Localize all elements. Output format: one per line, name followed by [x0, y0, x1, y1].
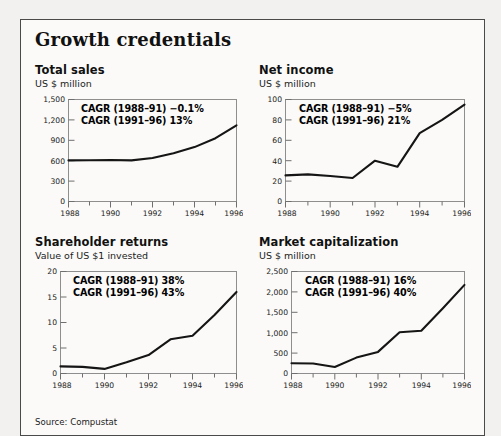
xtick-label: 1988	[283, 381, 302, 390]
xtick-label: 1994	[185, 209, 204, 218]
panel-title-total-sales: Total sales	[35, 64, 247, 77]
annotation-total-sales: CAGR (1988–91) −0.1% CAGR (1991–96) 13%	[81, 103, 204, 127]
ytick-label: 0	[283, 369, 288, 378]
ytick-label: 1,200	[43, 116, 65, 125]
annotation-shareholder-returns: CAGR (1988–91) 38% CAGR (1991–96) 43%	[73, 275, 184, 299]
panel-net-income: Net income US $ million	[259, 64, 474, 225]
xtick-label: 1992	[368, 381, 387, 390]
xtick-label: 1990	[101, 209, 120, 218]
ytick-label: 500	[274, 349, 289, 358]
xtick-label: 1992	[365, 209, 384, 218]
panel-subtitle-shareholder-returns: Value of US $1 invested	[35, 250, 247, 261]
annotation-line: CAGR (1991–96) 21%	[299, 115, 412, 127]
panel-subtitle-total-sales: US $ million	[35, 78, 247, 89]
ytick-label: 600	[51, 157, 66, 166]
xtick-label: 1988	[277, 209, 296, 218]
xtick-label: 1992	[143, 209, 162, 218]
xtick-label: 1988	[52, 381, 71, 390]
ytick-label: 2,500	[266, 267, 288, 276]
ytick-label: 80	[272, 116, 282, 125]
page-title: Growth credentials	[35, 29, 231, 50]
ytick-label: 1,500	[43, 95, 65, 104]
annotation-net-income: CAGR (1988–91) −5% CAGR (1991–96) 21%	[299, 103, 412, 127]
ytick-label: 10	[47, 318, 57, 327]
annotation-line: CAGR (1988–91) 16%	[305, 275, 416, 287]
annotation-line: CAGR (1991–96) 40%	[305, 287, 416, 299]
xtick-label: 1996	[452, 381, 471, 390]
xtick-label: 1996	[224, 209, 243, 218]
xtick-label: 1994	[410, 209, 429, 218]
ytick-label: 1,500	[266, 308, 288, 317]
xtick-label: 1990	[325, 381, 344, 390]
ytick-label: 1,000	[266, 329, 288, 338]
growth-credentials-figure: Growth credentials Total sales US $ mill…	[20, 19, 485, 436]
ytick-label: 100	[268, 95, 283, 104]
plot-net-income: 0 20 40 60 80 100 1988 1990 1992 1994 19…	[259, 93, 474, 225]
ytick-label: 0	[52, 369, 57, 378]
annotation-line: CAGR (1988–91) −5%	[299, 103, 412, 115]
ytick-label: 5	[52, 344, 57, 353]
annotation-line: CAGR (1991–96) 13%	[81, 115, 204, 127]
plot-market-capitalization: 0 500 1,000 1,500 2,000 2,500 1988 1990 …	[259, 265, 474, 397]
plot-total-sales: 0 300 600 900 1,200 1,500 1988 1990 1992…	[35, 93, 247, 225]
xtick-label: 1990	[321, 209, 340, 218]
panel-subtitle-net-income: US $ million	[259, 78, 474, 89]
annotation-market-capitalization: CAGR (1988–91) 16% CAGR (1991–96) 40%	[305, 275, 416, 299]
ytick-label: 20	[47, 267, 57, 276]
panel-title-net-income: Net income	[259, 64, 474, 77]
panel-subtitle-market-capitalization: US $ million	[259, 250, 474, 261]
ytick-label: 2,000	[266, 288, 288, 297]
ytick-label: 300	[51, 177, 66, 186]
xtick-label: 1992	[139, 381, 158, 390]
xtick-label: 1988	[60, 209, 79, 218]
xtick-label: 1996	[452, 209, 471, 218]
ytick-label: 20	[272, 177, 282, 186]
panel-shareholder-returns: Shareholder returns Value of US $1 inves…	[35, 236, 247, 397]
plot-shareholder-returns: 0 5 10 15 20 1988 1990 1992 1994 1996 CA…	[35, 265, 247, 397]
annotation-line: CAGR (1988–91) −0.1%	[81, 103, 204, 115]
annotation-line: CAGR (1991–96) 43%	[73, 287, 184, 299]
ytick-label: 40	[272, 157, 282, 166]
xtick-label: 1996	[224, 381, 243, 390]
panel-market-capitalization: Market capitalization US $ million	[259, 236, 474, 397]
data-series-total-sales	[69, 125, 237, 160]
ytick-label: 0	[60, 197, 65, 206]
panel-total-sales: Total sales US $ million	[35, 64, 247, 225]
ytick-label: 60	[272, 136, 282, 145]
panel-title-market-capitalization: Market capitalization	[259, 236, 474, 249]
xtick-label: 1994	[183, 381, 202, 390]
annotation-line: CAGR (1988–91) 38%	[73, 275, 184, 287]
source-note: Source: Compustat	[35, 417, 117, 427]
xtick-label: 1994	[412, 381, 431, 390]
panel-title-shareholder-returns: Shareholder returns	[35, 236, 247, 249]
ytick-label: 15	[47, 293, 57, 302]
data-series-shareholder-returns	[61, 292, 237, 369]
xtick-label: 1990	[95, 381, 114, 390]
ytick-label: 0	[277, 197, 282, 206]
ytick-label: 900	[51, 136, 66, 145]
